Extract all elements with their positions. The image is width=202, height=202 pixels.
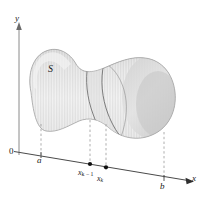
y-axis <box>16 22 22 155</box>
point-xk-minus-1 <box>88 162 92 166</box>
solid-body <box>27 44 182 140</box>
y-axis-arrowhead <box>16 22 22 30</box>
figure-canvas <box>0 0 202 202</box>
upper-bound-label: b <box>160 182 165 191</box>
solid-cross-section-figure: y x 0 a b S xk − 1 xk <box>0 0 202 202</box>
x-axis-label: x <box>192 174 196 183</box>
partition-label-xk: xk <box>97 175 103 184</box>
point-xk <box>104 165 108 169</box>
partition-left-subscript: k − 1 <box>82 171 94 177</box>
origin-label: 0 <box>9 147 14 156</box>
solid-label: S <box>48 64 53 74</box>
y-axis-label: y <box>15 14 19 23</box>
partition-right-subscript: k <box>101 177 104 183</box>
partition-label-xk-minus-1: xk − 1 <box>78 169 93 178</box>
lower-bound-label: a <box>37 156 42 165</box>
